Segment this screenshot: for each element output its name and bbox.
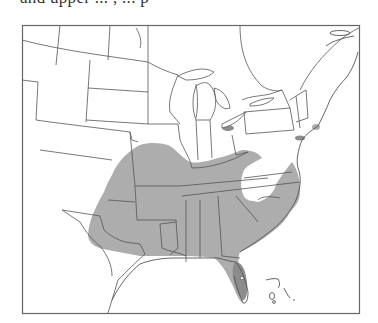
great-lakes [136,28,274,128]
lake-michigan [196,84,198,118]
lake-huron [214,88,230,109]
range-map [0,0,378,323]
map-svg [0,0,378,323]
lake-ontario [250,98,274,106]
lake-erie [222,112,246,128]
lake-winnipeg [136,28,141,48]
lake-superior [178,69,214,80]
anticosti-island [330,31,350,36]
